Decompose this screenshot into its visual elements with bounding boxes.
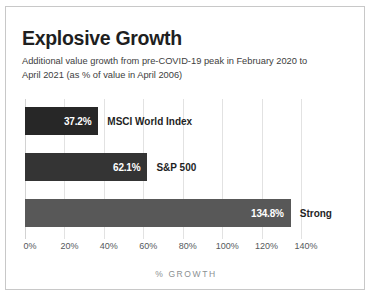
x-tick-label: 60% — [139, 241, 157, 251]
x-tick-label: 120% — [255, 241, 278, 251]
bar[interactable]: 62.1% — [25, 153, 147, 181]
chart-subtitle: Additional value growth from pre-COVID-1… — [22, 55, 312, 82]
x-tick-label: 140% — [294, 241, 317, 251]
bar-value-label: 134.8% — [251, 208, 291, 219]
bar-category-label: MSCI World Index — [107, 107, 192, 135]
bar-value-label: 62.1% — [113, 162, 147, 173]
bar-category-label: Strong — [300, 199, 332, 227]
chart-title: Explosive Growth — [22, 27, 182, 50]
plot-area: 37.2%MSCI World Index62.1%S&P 500134.8%S… — [6, 99, 366, 239]
x-axis-tick-labels: 0%20%40%60%80%100%120%140% — [6, 241, 366, 257]
bar-row: 37.2%MSCI World Index — [6, 107, 366, 135]
bar-row: 62.1%S&P 500 — [6, 153, 366, 181]
bar-value-label: 37.2% — [64, 116, 98, 127]
bar-row: 134.8%Strong — [6, 199, 366, 227]
x-tick-label: 20% — [60, 241, 78, 251]
chart-figure: Explosive Growth Additional value growth… — [5, 6, 365, 290]
bar-category-label: S&P 500 — [156, 153, 196, 181]
bar[interactable]: 37.2% — [25, 107, 98, 135]
bar[interactable]: 134.8% — [25, 199, 291, 227]
x-axis-title: % GROWTH — [6, 269, 366, 279]
x-tick-label: 80% — [179, 241, 197, 251]
x-tick-label: 40% — [100, 241, 118, 251]
x-tick-label: 0% — [23, 241, 36, 251]
x-tick-label: 100% — [216, 241, 239, 251]
